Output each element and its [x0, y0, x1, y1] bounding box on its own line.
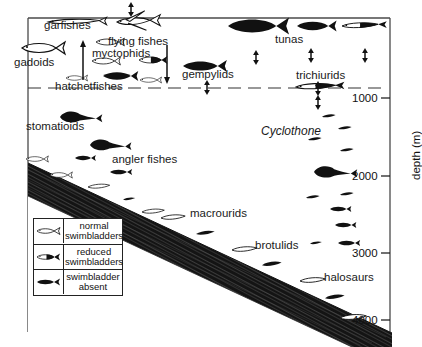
fish-outline-glyph: [36, 224, 62, 238]
legend-normal-line2: swimbladders: [65, 230, 123, 241]
depth-tick-3000: 3000: [352, 247, 378, 259]
migration-arrow-surface-top: [128, 2, 134, 17]
fish-halosaur-solid: [325, 295, 345, 299]
fish-slope-outline-3: [88, 184, 110, 188]
legend-text-normal: normal swimbladders: [64, 219, 124, 244]
depth-axis-ticks: [381, 98, 390, 320]
fish-cyclothone-10: [310, 241, 322, 244]
label-angler-fishes: angler fishes: [112, 154, 177, 166]
fish-halffill-glyph: [36, 250, 62, 264]
migration-arrow-deep: [315, 95, 321, 110]
fish-outline-icon: [34, 219, 64, 243]
legend-absent-line2: absent: [79, 281, 108, 292]
label-halosaurs: halosaurs: [324, 272, 374, 284]
fish-cyclothone-5: [314, 166, 357, 177]
fish-cyclothone-6: [306, 195, 320, 198]
fish-halffill-icon: [34, 245, 64, 269]
migration-arrow-myctophids-up: [80, 40, 86, 80]
label-hatchetfishes: hatchetfishes: [55, 81, 123, 93]
fish-macrourid-solid: [196, 231, 215, 235]
fish-solid-glyph: [36, 275, 62, 289]
migration-arrow-hatchetfishes-down: [164, 45, 170, 84]
fish-top-right-half: [342, 21, 387, 28]
label-tunas: tunas: [275, 34, 303, 46]
legend-row-reduced: reduced swimbladders: [34, 245, 122, 271]
fish-angler-2: [110, 169, 132, 175]
fish-brotulid-outline: [232, 247, 257, 252]
fish-cyclothone-7: [340, 192, 354, 195]
fish-slope-outline-1: [26, 156, 48, 162]
fish-brotulid-solid: [262, 262, 282, 266]
fish-solid-icon: [34, 270, 64, 294]
fish-halosaur-outline-1: [300, 278, 325, 283]
label-flying-fishes: flying fishes: [108, 36, 168, 48]
migration-arrow-tuna-3: [362, 48, 368, 63]
depth-tick-2000: 2000: [352, 170, 378, 182]
label-brotulids: brotulids: [255, 240, 298, 252]
fish-angler-1: [75, 155, 96, 161]
label-stomatioids: stomatioids: [26, 121, 84, 133]
fish-slope-outline-4: [142, 209, 164, 213]
swimbladder-legend: normal swimbladders reduced swimbladders: [33, 218, 123, 296]
migration-arrow-tuna-1: [253, 50, 259, 65]
fish-slope-solid-1: [123, 197, 135, 200]
depth-tick-1000: 1000: [352, 92, 378, 104]
fish-macrourid-outline: [161, 215, 185, 219]
label-trichiurids: trichiurids: [296, 70, 345, 82]
migration-arrow-tuna-2: [308, 48, 314, 63]
fish-flying-fishes: [117, 11, 160, 30]
fish-tunas-large: [228, 17, 289, 34]
legend-text-absent: swimbladder absent: [64, 270, 122, 295]
fish-hatchetfish-3: [140, 77, 162, 83]
label-macrourids: macrourids: [190, 208, 247, 220]
fish-stomatioid-2: [90, 140, 131, 151]
label-gadoids: gadoids: [14, 57, 54, 69]
label-myctophids: myctophids: [92, 48, 150, 60]
fish-cyclothone-9: [335, 222, 356, 228]
legend-text-reduced: reduced swimbladders: [64, 245, 124, 270]
fish-cyclothone-8: [330, 206, 351, 212]
fish-cyclothone-1: [322, 114, 336, 117]
fish-tunas-medium: [297, 20, 337, 31]
legend-row-absent: swimbladder absent: [34, 270, 122, 295]
depth-tick-4000: 4000: [352, 314, 378, 326]
depth-axis-title: depth (m): [410, 131, 422, 180]
fish-cyclothone-11: [338, 240, 360, 246]
fish-cyclothone-4: [340, 148, 354, 151]
label-garfishes: garfishes: [44, 20, 91, 32]
fish-cyclothone-2: [338, 126, 352, 129]
label-cyclothone: Cyclothone: [261, 125, 321, 137]
legend-reduced-line2: swimbladders: [65, 256, 123, 267]
legend-row-normal: normal swimbladders: [34, 219, 122, 245]
label-gempylids: gempylids: [182, 69, 234, 81]
